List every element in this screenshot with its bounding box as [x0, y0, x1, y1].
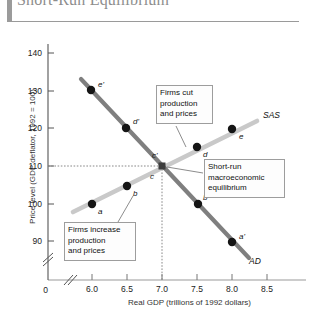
point-label-e-prime: e' [98, 80, 104, 89]
point-label-b: b [133, 189, 137, 198]
callout-equilibrium-line-2: macroeconomic [208, 173, 281, 184]
x-tick-label-8-0: 8.0 [220, 284, 244, 294]
y-tick-label-100: 100 [18, 199, 42, 209]
curve-label-sas: SAS [263, 110, 280, 120]
point-label-c: c [150, 172, 154, 181]
y-tick-label-90: 90 [18, 236, 42, 246]
data-point-d [193, 143, 201, 151]
x-tick-label-6-0: 6.0 [80, 284, 104, 294]
data-point-a-prime [228, 238, 236, 246]
data-point-d-prime [122, 124, 130, 132]
x-tick-label-7-0: 7.0 [150, 284, 174, 294]
leader-line-firms-cut [176, 126, 186, 147]
x-tick-label-8-5: 8.5 [255, 284, 279, 294]
data-point-b [123, 182, 131, 190]
point-label-a: a [98, 207, 102, 216]
y-tick-marks [48, 53, 54, 241]
x-tick-label-7-5: 7.5 [185, 284, 209, 294]
point-label-e: e [239, 132, 243, 141]
callout-firms-increase-line-1: Firms increase [68, 225, 132, 236]
point-label-d: d [203, 150, 207, 159]
callout-firms-cut-line-1: Firms cut [160, 88, 209, 99]
leader-line-equilibrium [167, 167, 203, 173]
callout-firms-increase: Firms increase production and prices [64, 222, 136, 261]
x-axis-title: Real GDP (trillions of 1992 dollars) [128, 298, 251, 307]
callout-firms-increase-line-3: and prices [68, 246, 132, 257]
data-point-e-prime [87, 86, 95, 94]
callout-equilibrium: Short-run macroeconomic equilibrium [204, 159, 285, 198]
callout-firms-cut-line-3: and prices [160, 109, 209, 120]
y-tick-label-140: 140 [18, 48, 42, 58]
callout-equilibrium-line-3: equilibrium [208, 183, 281, 194]
y-tick-label-130: 130 [18, 86, 42, 96]
callout-firms-cut-line-2: production [160, 99, 209, 110]
point-label-a-prime: a' [239, 232, 245, 241]
callout-firms-cut: Firms cut production and prices [156, 85, 213, 124]
data-point-b-prime [194, 200, 202, 208]
point-label-c-prime: c' [152, 151, 158, 160]
curve-label-ad: AD [249, 256, 261, 266]
x-tick-marks [92, 274, 267, 280]
callout-firms-increase-line-2: production [68, 236, 132, 247]
x-tick-label-6-5: 6.5 [115, 284, 139, 294]
callout-equilibrium-line-1: Short-run [208, 162, 281, 173]
figure-short-run-equilibrium: Short-Run Equilibrium [0, 0, 309, 317]
data-point-e [228, 125, 236, 133]
point-label-d-prime: d' [133, 117, 139, 126]
equilibrium-marker [159, 163, 166, 170]
leader-line-firms-increase [118, 196, 133, 222]
data-point-a [88, 200, 96, 208]
y-axis-origin-label: 0 [24, 285, 48, 295]
y-tick-label-110: 110 [18, 161, 42, 171]
y-tick-label-120: 120 [18, 123, 42, 133]
